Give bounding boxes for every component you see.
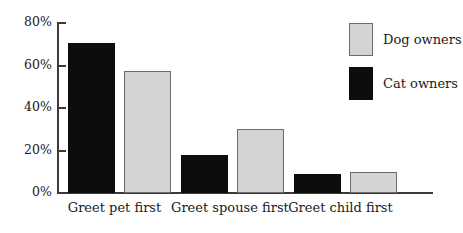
bar-dog-owners-0 <box>124 71 171 193</box>
cat-swatch-icon <box>349 67 373 100</box>
bar-dog-owners-2 <box>350 172 397 193</box>
bar-chart: 80% 60% 40% 20% 0% Greet pet first Greet… <box>0 0 463 233</box>
x-axis-label-1: Greet spouse first <box>171 200 284 215</box>
y-axis-label-20: 20% <box>8 144 52 157</box>
y-axis-label-80: 80% <box>8 16 52 29</box>
bar-cat-owners-1 <box>181 155 228 193</box>
x-axis-label-2: Greet child first <box>284 200 397 215</box>
bar-dog-owners-1 <box>237 129 284 193</box>
legend-item-cat-owners: Cat owners <box>349 67 458 100</box>
bar-cat-owners-0 <box>68 43 115 193</box>
legend-label-dog-owners: Dog owners <box>383 33 462 47</box>
x-axis-label-0: Greet pet first <box>58 200 171 215</box>
bar-group-1 <box>181 22 291 193</box>
y-axis-label-40: 40% <box>8 101 52 114</box>
bar-group-0 <box>68 22 178 193</box>
legend-item-dog-owners: Dog owners <box>349 23 462 56</box>
dog-swatch-icon <box>349 23 373 56</box>
y-axis-label-0: 0% <box>8 186 52 199</box>
legend-label-cat-owners: Cat owners <box>383 77 458 91</box>
y-axis-label-60: 60% <box>8 59 52 72</box>
bar-cat-owners-2 <box>294 174 341 193</box>
